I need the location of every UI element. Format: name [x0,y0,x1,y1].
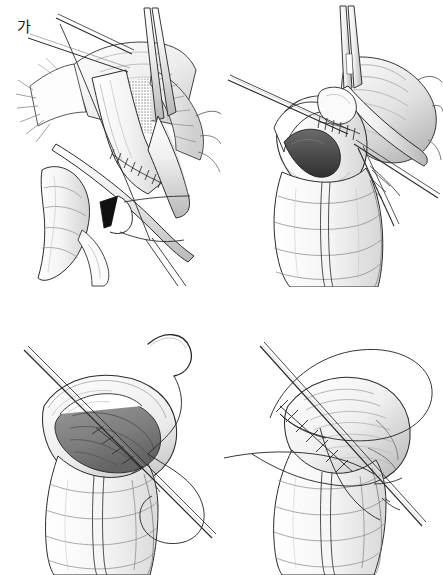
surgical-illustration-figure: 가 [0,0,443,575]
panel-na: 나 [222,0,443,287]
panel-ga: 가 [0,0,221,287]
panel-ga-artwork [0,0,221,287]
mesenteric-fat-left [16,58,86,142]
panel-da-artwork [0,288,221,575]
panel-da: 다 [0,288,221,575]
bowel-limbs-descending [274,168,383,287]
bowel-distal-tail [78,230,109,286]
bowel-loop-lower [38,167,90,281]
panel-ra: 라 [222,288,443,575]
stapler-shaft [340,6,362,90]
panel-na-artwork [222,0,443,287]
panel-ra-artwork [222,288,443,575]
curved-suture-needle [148,335,191,376]
panel-label-ga: 가 [17,20,31,35]
